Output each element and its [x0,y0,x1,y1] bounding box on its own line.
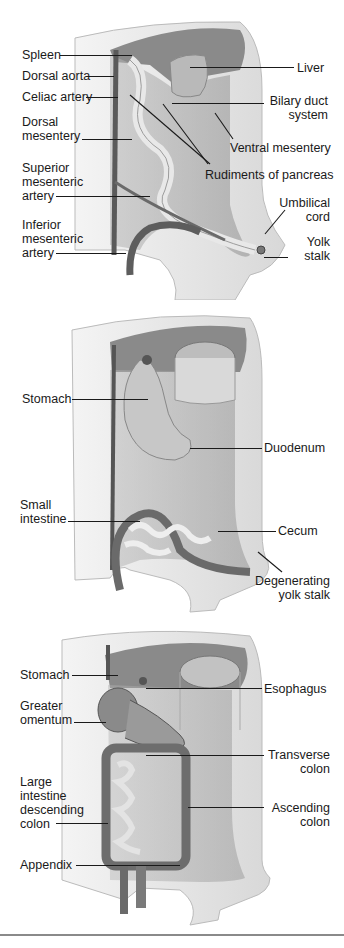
label-yolk-stalk: Yolk stalk [290,235,330,263]
label-rudiments-of-pancreas: Rudiments of pancreas [205,168,334,182]
label-transverse-colon: Transverse colon [250,748,330,776]
leader-descending-colon [56,823,108,824]
leader-yolk-stalk [264,257,288,258]
leader-esophagus [146,688,262,689]
label-large-intestine-line4: colon [20,817,50,831]
label-esophagus: Esophagus [264,682,327,696]
label-yolk-line1: Yolk [307,235,330,249]
label-large-intestine-line2: intestine [20,789,67,803]
label-umbilical-cord: Umbilical cord [270,196,330,224]
label-degenerating-yolk-stalk: Degenerating yolk stalk [250,574,330,602]
label-ascending-line1: Ascending [272,801,330,815]
label-greater-omentum: Greater omentum [20,699,72,727]
panel-stage-2: Stomach Duodenum Small intestine Cecum D… [0,300,344,620]
label-ascending-colon: Ascending colon [250,801,330,829]
label-large-intestine-line3: descending [20,803,84,817]
leader-ascending-colon [188,807,264,808]
panel-stage-3: Stomach Esophagus Greater omentum Transv… [0,620,344,934]
label-yolk-line2: stalk [304,249,330,263]
label-ascending-line2: colon [300,815,330,829]
leader-degenerating-yolk-stalk [0,300,344,620]
bottom-divider [0,934,344,936]
label-greater-omentum-line1: Greater [20,699,62,713]
label-degenerating-line2: yolk stalk [279,588,330,602]
leader-stomach-2 [72,675,118,676]
label-stomach-2: Stomach [20,668,69,682]
label-degenerating-line1: Degenerating [255,574,330,588]
label-large-intestine-line1: Large [20,775,52,789]
label-appendix: Appendix [20,858,72,872]
label-greater-omentum-line2: omentum [20,713,72,727]
label-transverse-line1: Transverse [268,748,330,762]
panel-stage-1: Spleen Dorsal aorta Celiac artery Dorsal… [0,0,344,300]
leader-transverse-colon [146,755,264,756]
label-umbilical-line1: Umbilical [279,196,330,210]
leader-appendix [76,865,180,866]
label-transverse-line2: colon [300,762,330,776]
leader-greater-omentum [74,722,106,723]
label-umbilical-line2: cord [306,210,330,224]
